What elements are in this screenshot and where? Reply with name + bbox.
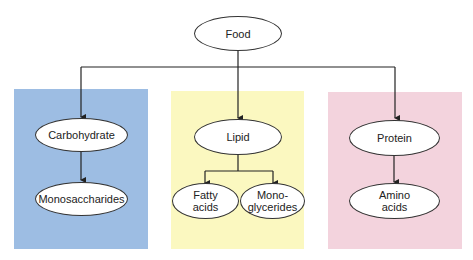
- node-amino-acids-line1: Amino: [379, 189, 410, 201]
- node-food-label: Food: [225, 28, 250, 40]
- node-monosaccharides-label: Monosaccharides: [38, 193, 124, 205]
- node-fatty-acids-line1: Fatty: [193, 189, 217, 201]
- node-food: Food: [194, 16, 282, 51]
- node-carbohydrate-label: Carbohydrate: [48, 129, 115, 141]
- node-protein: Protein: [349, 120, 440, 156]
- node-fatty-acids-line2: acids: [193, 201, 219, 213]
- node-amino-acids-line2: acids: [382, 201, 408, 213]
- node-monoglycerides: Mono- glycerides: [240, 183, 305, 219]
- node-fatty-acids: Fatty acids: [172, 183, 239, 219]
- node-lipid: Lipid: [194, 119, 282, 155]
- node-carbohydrate: Carbohydrate: [35, 118, 128, 152]
- node-monoglycerides-line1: Mono-: [257, 189, 288, 201]
- node-amino-acids: Amino acids: [349, 183, 440, 219]
- node-protein-label: Protein: [377, 132, 412, 144]
- node-monosaccharides: Monosaccharides: [35, 182, 128, 216]
- node-monoglycerides-line2: glycerides: [248, 201, 298, 213]
- node-lipid-label: Lipid: [226, 131, 249, 143]
